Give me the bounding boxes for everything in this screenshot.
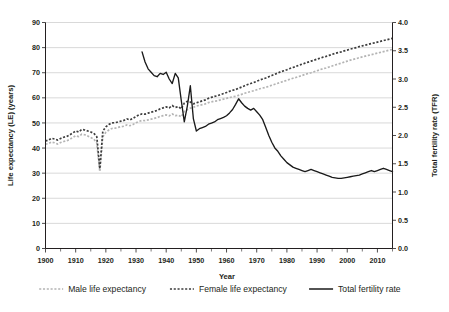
- y-axis-title-left: Life expectancy (LE) (years): [6, 85, 15, 186]
- y-tick-label-right: 2.5: [398, 103, 408, 112]
- x-tick-label: 1970: [249, 256, 265, 265]
- y-tick-label-left: 70: [32, 68, 40, 77]
- x-axis-title: Year: [219, 272, 235, 281]
- line-chart: 01020304050607080900.00.51.01.52.02.53.0…: [0, 0, 449, 312]
- y-tick-label-left: 30: [32, 169, 40, 178]
- x-tick-label: 1900: [38, 256, 54, 265]
- x-tick-label: 2000: [339, 256, 355, 265]
- y-tick-label-right: 1.5: [398, 159, 408, 168]
- series-male-life-expectancy: [46, 49, 393, 171]
- axis-labels-layer: 01020304050607080900.00.51.01.52.02.53.0…: [6, 18, 439, 280]
- x-tick-label: 1920: [98, 256, 114, 265]
- legend-label: Total fertility rate: [338, 284, 401, 294]
- y-tick-label-left: 0: [36, 244, 40, 253]
- axes-layer: [42, 23, 396, 253]
- series-female-life-expectancy: [46, 38, 393, 169]
- legend-item: Male life expectancy: [39, 284, 147, 294]
- legend-item: Female life expectancy: [170, 284, 288, 294]
- y-tick-label-left: 20: [32, 194, 40, 203]
- x-tick-label: 1930: [128, 256, 144, 265]
- y-tick-label-left: 60: [32, 93, 40, 102]
- y-tick-label-right: 0.0: [398, 244, 408, 253]
- y-tick-label-left: 10: [32, 219, 40, 228]
- data-series-layer: [46, 38, 393, 178]
- x-tick-label: 1960: [219, 256, 235, 265]
- legend-label: Female life expectancy: [199, 284, 288, 294]
- y-axis-title-right: Total fertility rate (TFR): [430, 94, 439, 177]
- x-tick-label: 2010: [369, 256, 385, 265]
- chart-figure: 01020304050607080900.00.51.01.52.02.53.0…: [0, 0, 449, 312]
- y-tick-label-right: 3.5: [398, 46, 408, 55]
- x-tick-label: 1910: [68, 256, 84, 265]
- chart-legend: Male life expectancyFemale life expectan…: [39, 284, 401, 294]
- legend-label: Male life expectancy: [68, 284, 147, 294]
- legend-item: Total fertility rate: [309, 284, 401, 294]
- x-tick-label: 1950: [188, 256, 204, 265]
- x-tick-label: 1990: [309, 256, 325, 265]
- y-tick-label-right: 4.0: [398, 18, 408, 27]
- y-tick-label-right: 2.0: [398, 131, 408, 140]
- y-tick-label-left: 40: [32, 144, 40, 153]
- y-tick-label-left: 50: [32, 119, 40, 128]
- y-tick-label-right: 3.0: [398, 75, 408, 84]
- x-tick-label: 1980: [279, 256, 295, 265]
- y-tick-label-left: 90: [32, 18, 40, 27]
- y-tick-label-left: 80: [32, 43, 40, 52]
- y-tick-label-right: 1.0: [398, 188, 408, 197]
- y-tick-label-right: 0.5: [398, 216, 408, 225]
- x-tick-label: 1940: [158, 256, 174, 265]
